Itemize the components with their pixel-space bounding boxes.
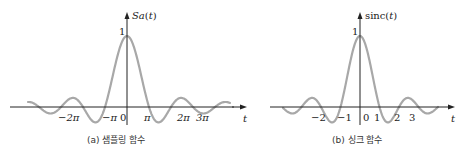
- sa-plot: Sa(t) 1 −2π −π 0 π 2π 3π: [10, 10, 234, 125]
- sinc-tick-1: 1: [374, 112, 380, 123]
- sinc-y-arrow-icon: [358, 12, 363, 19]
- sinc-ylabel: sinc(t): [365, 10, 397, 21]
- chart-canvas: Sa(t) 1 −2π −π 0 π 2π 3π t sinc(t) 1 −2 …: [0, 0, 464, 157]
- sinc-plot: sinc(t) 1 −2 −1 0 1 2 3 t: [270, 10, 456, 125]
- sinc-y-tick-1: 1: [352, 26, 358, 37]
- sa-tick-pi: π: [143, 112, 151, 123]
- sinc-tick-zero: 0: [363, 112, 369, 123]
- sa-y-tick-1: 1: [119, 26, 125, 37]
- sa-xlabel: t: [243, 113, 248, 124]
- sa-ylabel: Sa(t): [132, 10, 157, 21]
- sinc-tick-m1: −1: [337, 112, 352, 123]
- sinc-tick-3: 3: [409, 112, 415, 123]
- caption-a: (a) 샘플링 함수: [87, 133, 145, 146]
- sa-tick-zero: 0: [120, 112, 126, 123]
- sa-curve: [28, 36, 230, 122]
- sinc-tick-2: 2: [394, 112, 400, 123]
- caption-b: (b) 싱크 함수: [332, 133, 382, 146]
- sa-tick-m2pi: −2π: [58, 112, 80, 123]
- sa-tick-mpi: −π: [102, 112, 117, 123]
- sinc-tick-m2: −2: [311, 112, 326, 123]
- sa-y-arrow-icon: [125, 12, 130, 19]
- sa-tick-3pi: 3π: [196, 112, 209, 123]
- sa-tick-2pi: 2π: [176, 112, 190, 123]
- sinc-xlabel: t: [451, 113, 456, 124]
- sinc-x-arrow-icon: [448, 105, 455, 110]
- sa-x-arrow: t: [232, 105, 248, 125]
